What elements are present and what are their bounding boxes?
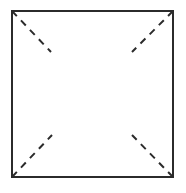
dashed-diagonals xyxy=(12,11,173,177)
diagonal-top-left xyxy=(12,11,51,52)
diagonal-top-right xyxy=(132,11,173,52)
square-diagram xyxy=(0,0,186,193)
diagonal-bottom-right xyxy=(132,135,173,177)
square-outline xyxy=(12,11,173,177)
diagonal-bottom-left xyxy=(12,135,52,177)
